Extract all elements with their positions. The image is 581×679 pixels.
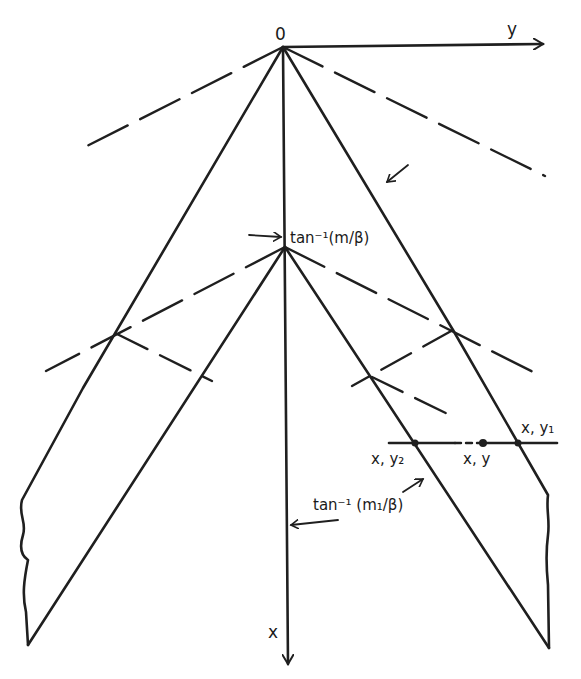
point-x-y1 xyxy=(515,440,522,447)
lower-angle-label: tan⁻¹ (m₁/β) xyxy=(313,496,403,514)
arrow-lower-angle xyxy=(291,520,338,525)
point-label-x-y1: x, y₁ xyxy=(521,419,554,437)
left-reflected-dashed xyxy=(117,334,212,381)
mach-diagram: 0 y x tan⁻¹(m/β) tan⁻¹ (m₁/β) x, y₂ x, y… xyxy=(0,0,581,679)
left-inner-mach-line xyxy=(28,247,285,645)
lower-left-dashed-ray xyxy=(46,247,285,371)
y-axis-label: y xyxy=(507,19,517,39)
point-x-y2 xyxy=(412,440,419,447)
upper-angle-label: tan⁻¹(m/β) xyxy=(290,229,369,247)
arrow-right-line xyxy=(387,165,408,182)
x-axis-label: x xyxy=(268,622,278,642)
y-axis xyxy=(283,44,543,47)
arrow-inner-line xyxy=(403,479,423,492)
left-outer-mach-line xyxy=(21,47,283,645)
point-label-x-y: x, y xyxy=(463,450,490,468)
point-x-y xyxy=(479,439,487,447)
x-axis xyxy=(283,47,288,664)
right-outer-mach-line xyxy=(283,47,549,648)
origin-label: 0 xyxy=(275,24,286,44)
right-inner-mach-line xyxy=(285,247,549,648)
arrow-upper-angle xyxy=(249,235,281,237)
right-reflected-dashed-upper xyxy=(352,330,453,386)
point-label-x-y2: x, y₂ xyxy=(371,450,404,468)
